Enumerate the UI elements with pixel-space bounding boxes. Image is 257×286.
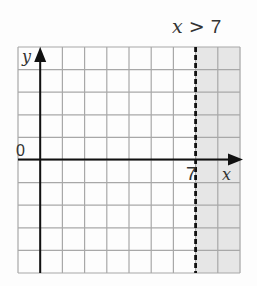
- x-axis-label: x: [222, 165, 231, 184]
- y-axis-label: y: [21, 47, 32, 66]
- y-axis-arrow-icon: [34, 47, 46, 62]
- origin-label: 0: [16, 142, 25, 159]
- inequality-graph: x > 7 y 0 7 x: [0, 0, 257, 286]
- inequality-title: x > 7: [172, 15, 221, 37]
- tick-label-7: 7: [186, 163, 197, 184]
